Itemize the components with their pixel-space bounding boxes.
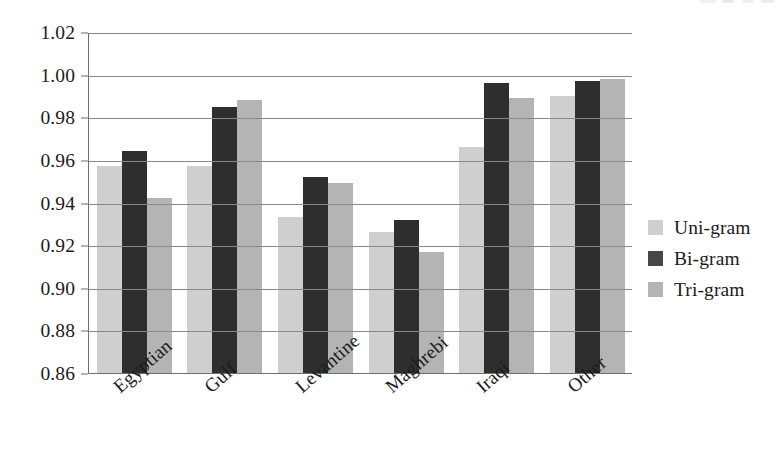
bar-gulf-uni-gram [187,166,212,373]
y-tick-mark [81,288,88,289]
legend-swatch-icon [648,251,663,266]
bar-chart: 0.860.880.900.920.940.960.981.001.02 Egy… [0,0,782,463]
bar-egyptian-bi-gram [122,151,147,373]
y-tick-mark [81,160,88,161]
y-tick-mark [81,33,88,34]
gridline [89,331,632,332]
bar-egyptian-uni-gram [97,166,122,373]
gridline [89,204,632,205]
y-tick-label: 0.86 [40,363,75,385]
y-tick-label: 0.96 [40,150,75,172]
gridline [89,118,632,119]
bar-levantine-bi-gram [303,177,328,373]
bar-levantine-uni-gram [278,217,303,373]
gridline [89,161,632,162]
legend-label: Tri-gram [674,279,745,301]
y-tick-label: 0.88 [40,320,75,342]
bar-iraqi-uni-gram [459,147,484,373]
y-tick-mark [81,246,88,247]
legend-swatch-icon [648,220,663,235]
chart-legend: Uni-gramBi-gramTri-gram [648,212,751,305]
y-tick-mark [81,374,88,375]
legend-item-tri-gram[interactable]: Tri-gram [648,274,751,305]
y-tick-mark [81,331,88,332]
y-tick-label: 1.02 [40,22,75,44]
bar-iraqi-bi-gram [484,83,509,373]
y-tick-label: 0.98 [40,107,75,129]
legend-label: Bi-gram [674,248,740,270]
bar-other-tri-gram [600,79,625,373]
plot-area [88,33,632,374]
bar-other-bi-gram [575,81,600,373]
y-tick-label: 0.92 [40,235,75,257]
y-tick-mark [81,75,88,76]
legend-item-uni-gram[interactable]: Uni-gram [648,212,751,243]
scan-artifact [700,0,774,3]
legend-swatch-icon [648,282,663,297]
gridline [89,246,632,247]
gridline [89,76,632,77]
bar-gulf-bi-gram [212,107,237,373]
bar-maghrebi-uni-gram [369,232,394,373]
gridline [89,289,632,290]
y-tick-mark [81,203,88,204]
legend-item-bi-gram[interactable]: Bi-gram [648,243,751,274]
legend-label: Uni-gram [674,217,751,239]
y-tick-label: 1.00 [40,65,75,87]
y-tick-label: 0.90 [40,278,75,300]
y-tick-mark [81,118,88,119]
y-tick-label: 0.94 [40,193,75,215]
gridline [89,33,632,34]
